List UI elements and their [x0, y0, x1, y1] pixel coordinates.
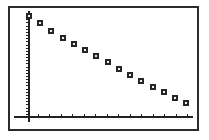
data-point-center [163, 91, 165, 93]
data-point [138, 78, 144, 84]
data-point [48, 28, 54, 34]
data-point [60, 35, 66, 41]
data-point-center [95, 55, 97, 57]
data-point [105, 59, 111, 65]
data-point-center [50, 30, 52, 32]
data-point-center [73, 43, 75, 45]
data-point [127, 72, 133, 78]
data-point-center [129, 74, 131, 76]
scatter-chart [10, 8, 197, 129]
data-point-center [39, 22, 41, 24]
data-point [183, 100, 189, 106]
data-point-center [84, 49, 86, 51]
data-point-center [152, 86, 154, 88]
plot-area [10, 8, 197, 129]
data-point [150, 84, 156, 90]
data-point [116, 66, 122, 72]
data-point [37, 20, 43, 26]
data-point-center [174, 97, 176, 99]
data-point-center [28, 15, 30, 17]
data-point-center [118, 68, 120, 70]
data-point [172, 95, 178, 101]
data-point [26, 13, 32, 19]
data-point [161, 89, 167, 95]
data-point-center [185, 102, 187, 104]
data-point-center [107, 61, 109, 63]
data-point [93, 53, 99, 59]
plot-border [8, 6, 199, 131]
chart-figure [0, 0, 209, 140]
data-point [71, 41, 77, 47]
data-point-center [62, 37, 64, 39]
data-point [82, 47, 88, 53]
data-point-center [140, 80, 142, 82]
